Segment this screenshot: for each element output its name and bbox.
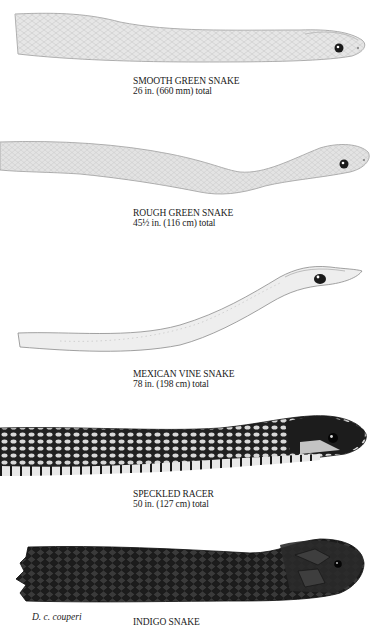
caption-indigo-snake: INDIGO SNAKE [133,617,200,627]
species-size: 50 in. (127 cm) total [133,499,214,509]
caption-smooth-green-snake: SMOOTH GREEN SNAKE 26 in. (660 mm) total [133,76,239,96]
species-size: 45½ in. (116 cm) total [133,218,233,228]
caption-rough-green-snake: ROUGH GREEN SNAKE 45½ in. (116 cm) total [133,208,233,228]
mexican-vine-snake-illustration [0,255,376,365]
indigo-snake-illustration [0,535,376,610]
species-size: 78 in. (198 cm) total [133,379,234,389]
speckled-racer-illustration [0,410,376,485]
caption-speckled-racer: SPECKLED RACER 50 in. (127 cm) total [133,489,214,509]
plate-rough-green-snake: ROUGH GREEN SNAKE 45½ in. (116 cm) total [0,130,376,250]
species-name: MEXICAN VINE SNAKE [133,369,234,379]
plate-smooth-green-snake: SMOOTH GREEN SNAKE 26 in. (660 mm) total [0,0,376,130]
rough-green-snake-illustration [0,130,376,210]
species-name: INDIGO SNAKE [133,617,200,627]
eye-icon [334,560,342,568]
species-name: SPECKLED RACER [133,489,214,499]
species-name: SMOOTH GREEN SNAKE [133,76,239,86]
eye-icon [335,44,344,53]
caption-mexican-vine-snake: MEXICAN VINE SNAKE 78 in. (198 cm) total [133,369,234,389]
plate-mexican-vine-snake: MEXICAN VINE SNAKE 78 in. (198 cm) total [0,255,376,385]
eye-icon [328,433,338,443]
subspecies-label: D. c. couperi [32,612,82,622]
eye-icon [340,160,349,169]
eye-icon [314,274,326,284]
species-name: ROUGH GREEN SNAKE [133,208,233,218]
plate-speckled-racer: SPECKLED RACER 50 in. (127 cm) total [0,410,376,530]
smooth-green-snake-illustration [0,0,376,80]
species-size: 26 in. (660 mm) total [133,86,239,96]
